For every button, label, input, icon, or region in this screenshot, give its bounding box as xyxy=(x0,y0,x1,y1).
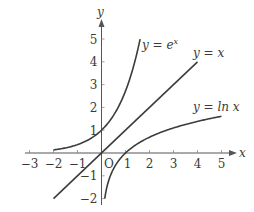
origin-label: O xyxy=(104,157,114,171)
function-graph: −3−2−112345 −2−112345 x y O y = ex y = x… xyxy=(0,0,254,212)
y-axis-label: y xyxy=(96,5,104,19)
y-tick-label: −2 xyxy=(80,192,98,206)
x-tick-label: −2 xyxy=(45,157,63,171)
x-tick-label: 2 xyxy=(146,157,154,171)
x-tick-label: 1 xyxy=(124,157,132,171)
y-tick-label: 4 xyxy=(90,55,98,69)
axis-ticks xyxy=(30,39,222,199)
ln-curve xyxy=(105,116,222,198)
identity-line xyxy=(54,62,198,199)
exp-curve-label: y = ex xyxy=(141,37,179,52)
identity-line-label: y = x xyxy=(192,46,224,60)
x-axis-label: x xyxy=(239,146,246,160)
x-tick-label: −3 xyxy=(21,157,39,171)
y-axis-arrow-icon xyxy=(99,19,105,27)
x-tick-labels: −3−2−112345 xyxy=(21,157,226,171)
y-tick-label: 3 xyxy=(90,78,98,92)
x-tick-label: 3 xyxy=(170,157,178,171)
y-tick-label: 5 xyxy=(90,33,98,47)
x-tick-label: 5 xyxy=(218,157,226,171)
y-tick-labels: −2−112345 xyxy=(80,33,98,207)
x-axis-arrow-icon xyxy=(229,150,237,156)
x-tick-label: 4 xyxy=(194,157,202,171)
ln-curve-label: y = ln x xyxy=(192,100,240,114)
y-tick-label: 2 xyxy=(90,101,98,115)
